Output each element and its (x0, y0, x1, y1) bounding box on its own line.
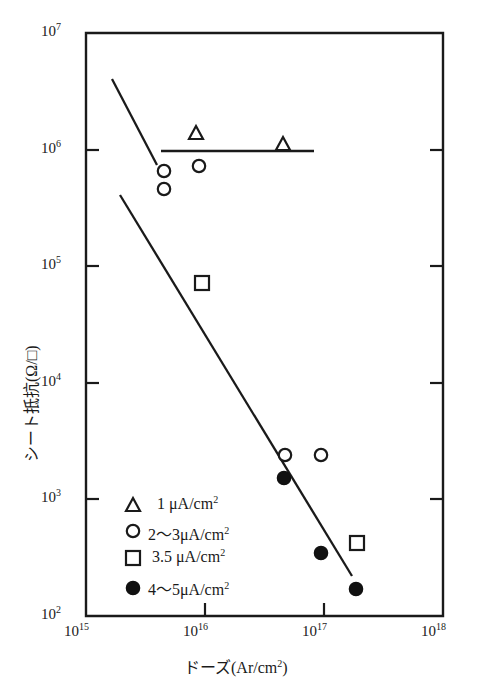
legend-label-1: 1 μA/cm2 (157, 495, 218, 513)
x-tick-label-1e17: 1017 (302, 624, 327, 639)
data-point-circle-4 (279, 449, 291, 461)
data-point-circle-2 (158, 183, 170, 195)
data-point-filled-2 (314, 546, 327, 559)
data-point-triangle-1 (189, 126, 203, 139)
trend-line-main-decreasing (120, 195, 352, 576)
data-point-filled-1 (277, 471, 290, 484)
trend-line-steep-upper-left (112, 79, 157, 165)
y-tick-label-1e4: 104 (41, 374, 61, 389)
series-triangle-open-markers (189, 126, 290, 150)
series-square-open-markers (195, 276, 364, 550)
legend-marker-circle-open (127, 525, 139, 537)
y-axis-title: シート抵抗(Ω/□) (18, 345, 42, 462)
x-tick-label-1e16: 1016 (183, 624, 208, 639)
data-point-circle-3 (193, 160, 205, 172)
legend-marker-circle-filled (126, 581, 139, 594)
legend-marker-triangle-open (126, 498, 140, 511)
legend-marker-square-open (126, 551, 140, 565)
y-axis-ticks-left (86, 150, 99, 499)
y-tick-label-1e6: 106 (41, 141, 61, 156)
y-tick-label-1e7: 107 (41, 24, 61, 39)
y-tick-label-1e5: 105 (41, 257, 61, 272)
x-tick-label-1e15: 1015 (64, 624, 89, 639)
legend-label-3: 3.5 μA/cm2 (152, 548, 225, 566)
y-tick-label-1e2: 102 (41, 607, 61, 622)
x-axis-title: ドーズ(Ar/cm2) (184, 654, 288, 678)
data-point-square-2 (350, 536, 364, 550)
legend-label-4: 4〜5μA/cm2 (148, 576, 229, 600)
legend-markers (126, 498, 140, 595)
data-point-square-1 (195, 276, 209, 290)
data-point-circle-5 (315, 449, 327, 461)
chart-canvas (0, 0, 483, 692)
x-axis-ticks (205, 603, 324, 616)
x-tick-label-1e18: 1018 (421, 624, 446, 639)
series-circle-open-markers (158, 160, 327, 461)
y-axis-ticks-right (430, 150, 443, 499)
data-point-filled-3 (349, 582, 362, 595)
y-tick-label-1e3: 103 (41, 490, 61, 505)
chart-figure: 107 106 105 104 103 102 1015 1016 1017 1… (0, 0, 483, 692)
trend-lines (112, 79, 352, 576)
data-point-circle-1 (158, 165, 170, 177)
legend-label-2: 2〜3μA/cm2 (148, 521, 229, 545)
series-circle-filled-markers (277, 471, 362, 595)
data-point-triangle-2 (276, 137, 290, 150)
